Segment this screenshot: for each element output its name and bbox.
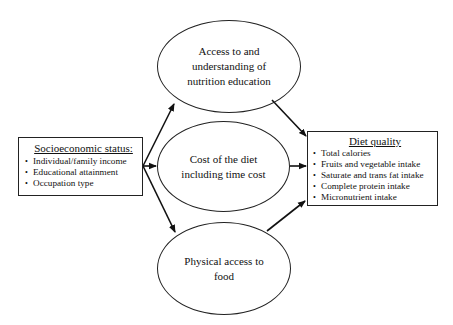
diet-quality-box: Diet quality Total calories Fruits and v… (307, 131, 438, 206)
diet-quality-list: Total calories Fruits and vegetable inta… (313, 148, 437, 203)
physical-access-node: Physical access to food (157, 222, 291, 315)
list-item: Complete protein intake (313, 181, 437, 192)
diet-cost-node: Cost of the diet including time cost (157, 121, 290, 212)
list-item: Total calories (313, 148, 437, 159)
diet-quality-title: Diet quality (313, 135, 437, 147)
list-item: Educational attainment (25, 167, 142, 178)
socioeconomic-status-list: Individual/family income Educational att… (25, 156, 142, 189)
nutrition-education-node: Access to and understanding of nutrition… (157, 20, 301, 113)
node-label-line: including time cost (181, 167, 265, 182)
node-label-line: Cost of the diet (181, 152, 265, 167)
node-label-line: food (184, 269, 263, 284)
node-label-line: nutrition education (187, 74, 270, 89)
list-item: Fruits and vegetable intake (313, 159, 437, 170)
socioeconomic-status-title: Socioeconomic status: (25, 142, 142, 154)
socioeconomic-status-box: Socioeconomic status: Individual/family … (18, 137, 143, 196)
node-label-line: Physical access to (184, 254, 263, 269)
list-item: Occupation type (25, 178, 142, 189)
node-label-line: Access to and (187, 44, 270, 59)
node-label-line: understanding of (187, 59, 270, 74)
list-item: Micronutrient intake (313, 192, 437, 203)
list-item: Individual/family income (25, 156, 142, 167)
arrow-education-to-diet (272, 100, 306, 136)
list-item: Saturate and trans fat intake (313, 170, 437, 181)
arrow-physical-to-diet (267, 201, 305, 231)
